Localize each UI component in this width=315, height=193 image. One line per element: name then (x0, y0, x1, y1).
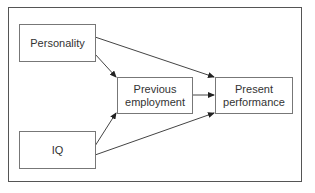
node-iq: IQ (19, 131, 96, 169)
edge-personality-present (95, 37, 214, 77)
node-personality: Personality (19, 24, 96, 62)
node-present-label-line2: performance (223, 96, 285, 109)
edge-iq-present (95, 113, 214, 155)
edge-personality-previous (95, 54, 116, 77)
node-present-performance: Present performance (215, 77, 293, 114)
node-present-label-line1: Present (235, 83, 273, 96)
node-previous-label-line1: Previous (134, 83, 177, 96)
node-iq-label: IQ (52, 144, 64, 157)
node-previous-employment: Previous employment (117, 77, 193, 114)
node-personality-label: Personality (30, 37, 84, 50)
node-previous-label-line2: employment (125, 96, 185, 109)
edge-iq-previous (95, 113, 116, 146)
